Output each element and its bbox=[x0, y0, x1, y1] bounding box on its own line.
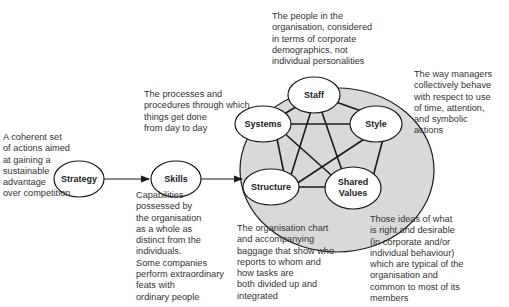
node-style: Style bbox=[350, 106, 402, 142]
structure-description: The organisation chart and accompanying … bbox=[237, 223, 334, 302]
node-shared-values: Shared Values bbox=[325, 167, 381, 209]
strategy-description: A coherent set of actions aimed at gaini… bbox=[3, 132, 70, 200]
staff-label: Staff bbox=[304, 90, 325, 100]
style-label: Style bbox=[365, 119, 387, 129]
systems-label: Systems bbox=[244, 119, 281, 129]
node-staff: Staff bbox=[288, 77, 340, 113]
staff-description: The people in the organisation, consider… bbox=[272, 11, 372, 67]
node-structure: Structure bbox=[243, 169, 299, 205]
structure-label: Structure bbox=[251, 182, 291, 192]
systems-description: The processes and procedures through whi… bbox=[144, 89, 250, 134]
skills-description: Capabilities possessed by the organisati… bbox=[136, 190, 224, 303]
style-description: The way managers collectively behave wit… bbox=[414, 69, 492, 137]
shared-values-label-1: Shared bbox=[338, 177, 369, 187]
skills-label: Skills bbox=[164, 174, 188, 184]
shared-values-label-2: Values bbox=[339, 188, 368, 198]
shared-values-description: Those ideas of what is right and desirab… bbox=[370, 214, 463, 304]
